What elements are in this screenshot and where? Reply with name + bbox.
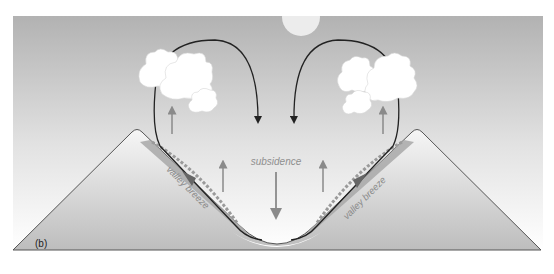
panel-label: (b) [35, 238, 47, 249]
mountain-valley-circulation-diagram: subsidence valley breeze valley breeze (… [0, 0, 554, 274]
subsidence-label: subsidence [251, 156, 302, 167]
diagram-canvas: subsidence valley breeze valley breeze (… [0, 0, 554, 274]
